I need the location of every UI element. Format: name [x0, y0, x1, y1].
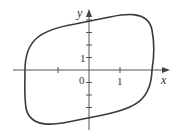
x-tick-label: 1 [117, 75, 123, 87]
y-axis-label: y [76, 6, 83, 20]
diagram-canvas: y x 0 1 1 [0, 0, 178, 138]
x-axis-label: x [160, 73, 167, 87]
y-tick-label: 1 [80, 52, 86, 64]
origin-label: 0 [79, 74, 85, 86]
y-axis-arrow-icon [86, 9, 92, 17]
x-axis [13, 67, 170, 73]
